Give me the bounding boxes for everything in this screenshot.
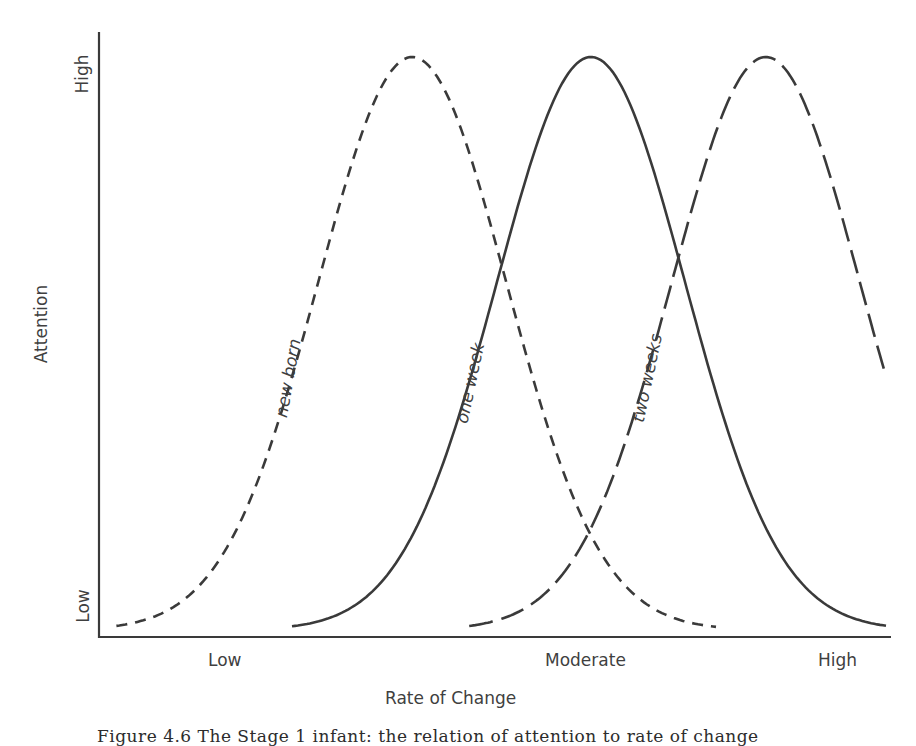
- x-tick-moderate: Moderate: [545, 650, 626, 670]
- y-tick-low: Low: [73, 589, 93, 622]
- x-tick-low: Low: [208, 650, 241, 670]
- figure-caption: Figure 4.6 The Stage 1 infant: the relat…: [97, 726, 759, 746]
- x-axis-label: Rate of Change: [385, 688, 516, 708]
- y-tick-high: High: [72, 54, 92, 93]
- x-tick-high: High: [818, 650, 857, 670]
- curve-two-weeks: [469, 57, 886, 626]
- curve-one-week: [292, 57, 886, 626]
- curve-new-born: [116, 57, 716, 627]
- y-axis-label: Attention: [31, 285, 51, 363]
